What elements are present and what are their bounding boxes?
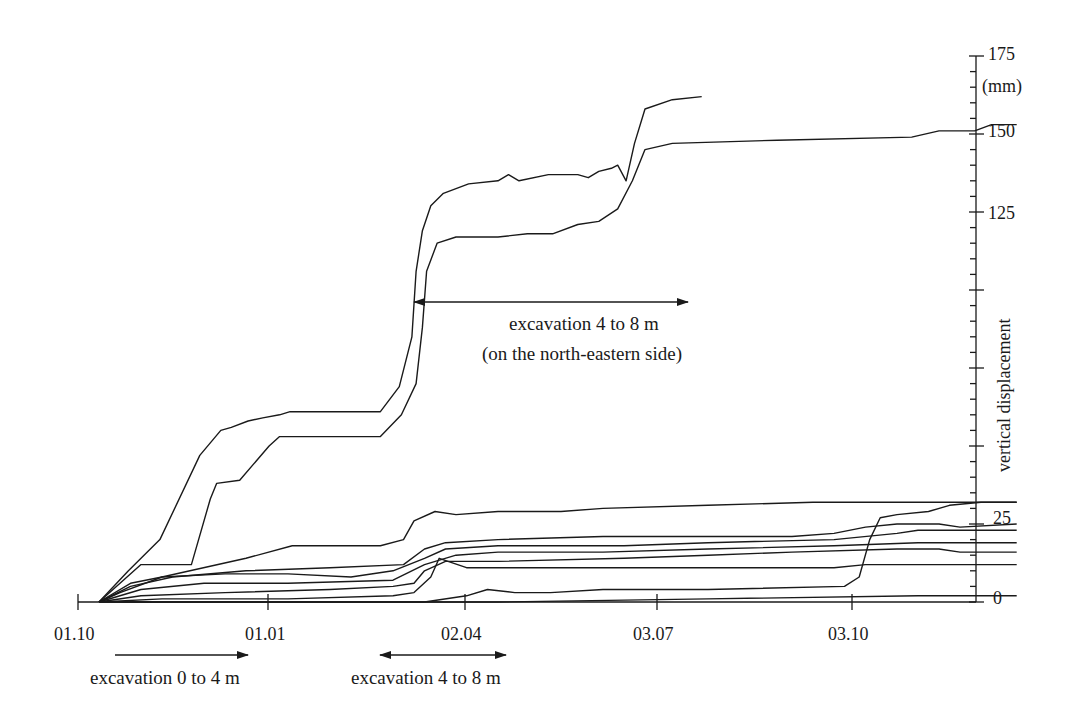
series-line-curve-6	[99, 543, 1017, 602]
y-tick-label-125: 125	[988, 203, 1015, 224]
x-tick-label-01-01: 01.01	[245, 624, 286, 645]
series-line-curve-8	[99, 558, 1017, 602]
series-line-curve-7	[99, 549, 1017, 602]
x-tick-label-02-04: 02.04	[441, 624, 482, 645]
y-tick-label-0: 0	[993, 588, 1002, 609]
annotation-bottom-1: excavation 0 to 4 m	[90, 667, 240, 689]
annotation-main-line2: (on the north-eastern side)	[482, 343, 682, 365]
annotation-main-line1: excavation 4 to 8 m	[509, 313, 659, 335]
x-tick-label-03-10: 03.10	[828, 624, 869, 645]
x-tick-label-03-07: 03.07	[633, 624, 674, 645]
y-tick-label-150: 150	[988, 121, 1015, 142]
annotation-bottom-2: excavation 4 to 8 m	[351, 667, 501, 689]
y-unit-label: (mm)	[982, 76, 1022, 97]
x-tick-label-01-10: 01.10	[54, 624, 95, 645]
y-axis-title: vertical displacement	[994, 319, 1015, 472]
y-tick-label-175: 175	[988, 44, 1015, 65]
series-line-curve-5	[99, 530, 1017, 602]
y-axis	[969, 56, 984, 602]
y-tick-label-25: 25	[993, 508, 1011, 529]
